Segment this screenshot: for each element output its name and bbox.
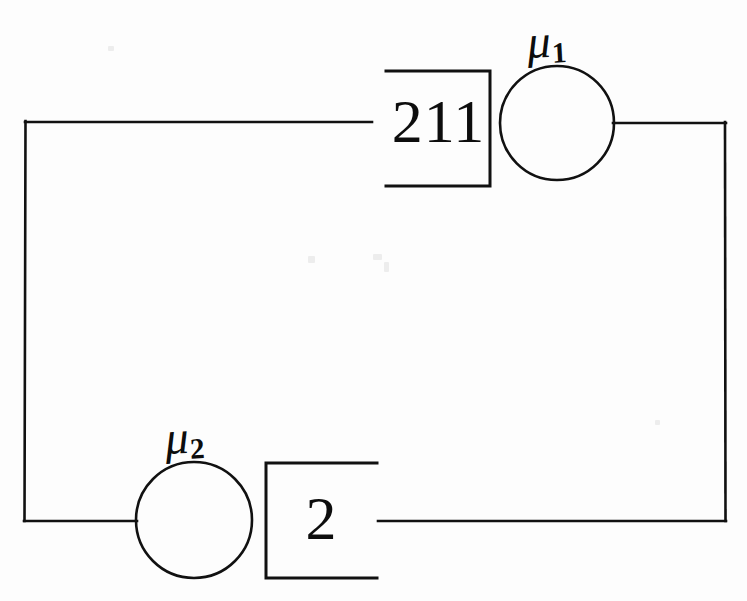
diagram-canvas: 211 2 μ1 μ2: [0, 0, 747, 601]
mu2-base: μ: [164, 411, 190, 464]
scan-speck: [655, 420, 660, 425]
source-node-mu2-circle: [136, 462, 252, 578]
source-node-mu2-label: μ2: [164, 413, 206, 466]
scan-speck: [384, 262, 389, 272]
wire-left-side: [25, 121, 26, 521]
mu2-subscript: 2: [188, 432, 205, 465]
resistor-box-bottom-value: 2: [265, 487, 377, 549]
wire-right-side: [725, 122, 726, 521]
source-node-mu1-circle: [500, 66, 614, 180]
mu1-subscript: 1: [550, 36, 567, 69]
source-node-mu1-label: μ1: [526, 17, 568, 70]
mu1-base: μ: [526, 15, 552, 68]
scan-speck: [308, 256, 315, 263]
resistor-box-top-value: 211: [386, 90, 491, 152]
scan-speck: [373, 254, 382, 260]
scan-speck: [108, 46, 114, 51]
